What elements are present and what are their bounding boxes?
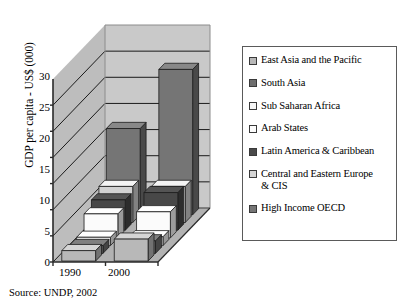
legend-item: Arab States xyxy=(249,122,392,134)
plot-area xyxy=(50,12,225,267)
legend-item: East Asia and the Pacific xyxy=(249,54,392,66)
legend-item: Central and Eastern Europe & CIS xyxy=(249,168,392,191)
plot-3d-svg xyxy=(50,12,225,267)
legend-item: Latin America & Caribbean xyxy=(249,145,392,157)
legend-item-label: Latin America & Caribbean xyxy=(261,145,374,157)
y-tick-label: 15 xyxy=(24,164,50,175)
legend-swatch-icon xyxy=(249,57,257,65)
y-tick-label: 30 xyxy=(24,71,50,82)
source-note: Source: UNDP, 2002 xyxy=(9,287,97,299)
legend-item: High Income OECD xyxy=(249,202,392,214)
legend-item-label: Sub Saharan Africa xyxy=(261,100,340,112)
legend-swatch-icon xyxy=(249,79,257,87)
legend-item-label: Central and Eastern Europe & CIS xyxy=(261,168,373,191)
legend-swatch-icon xyxy=(249,125,257,133)
legend-swatch-icon xyxy=(249,205,257,213)
chart-legend: East Asia and the Pacific South Asia Sub… xyxy=(242,46,397,241)
chart-figure: GDP per capita - US$ (000) 30 25 20 15 1… xyxy=(0,0,404,305)
x-tick-label: 1990 xyxy=(59,266,81,278)
legend-item-label: South Asia xyxy=(261,77,305,89)
legend-item: South Asia xyxy=(249,77,392,89)
y-tick-label: 5 xyxy=(24,226,50,237)
y-axis-tick-labels: 30 25 20 15 10 5 0 xyxy=(24,60,50,275)
legend-swatch-icon xyxy=(249,170,257,178)
legend-swatch-icon xyxy=(249,102,257,110)
legend-item: Sub Saharan Africa xyxy=(249,100,392,112)
y-tick-label: 0 xyxy=(24,257,50,268)
legend-swatch-icon xyxy=(249,148,257,156)
y-tick-label: 10 xyxy=(24,195,50,206)
legend-item-label: High Income OECD xyxy=(261,202,345,214)
x-tick-label: 2000 xyxy=(108,266,130,278)
y-tick-label: 25 xyxy=(24,102,50,113)
y-tick-label: 20 xyxy=(24,133,50,144)
legend-item-label: Arab States xyxy=(261,122,308,134)
x-axis-tick-labels: 1990 2000 xyxy=(50,266,225,284)
legend-item-label: East Asia and the Pacific xyxy=(261,54,362,66)
